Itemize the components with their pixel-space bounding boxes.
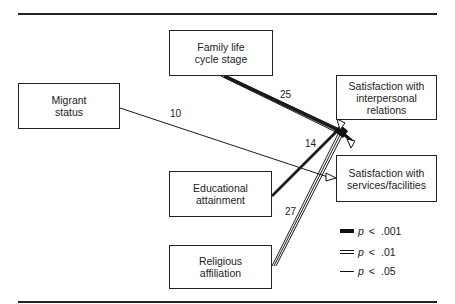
arrowhead-services-top-icon [347,139,355,148]
legend-op: < [369,265,375,277]
legend-p: p [358,246,364,258]
node-label: Migrant status [51,94,86,118]
legend-value: .05 [381,265,396,277]
edge-migrant-services [120,108,328,177]
coef-education: 14 [305,138,316,149]
legend-op: < [369,225,375,237]
edge-religion-interpersonal [272,132,343,266]
node-label: Educational attainment [193,182,248,206]
coef-family: 25 [280,89,291,100]
legend-value: .01 [381,246,396,258]
node-family-life-cycle-stage: Family life cycle stage [169,30,273,76]
node-label: Family life cycle stage [195,41,248,65]
arrowhead-migrant-services-icon [326,173,336,181]
edge-family-interpersonal [221,76,344,134]
node-satisfaction-services: Satisfaction with services/facilities [336,155,437,202]
legend-p001: p < .001 [340,225,401,237]
node-label: Religious affiliation [199,255,242,279]
node-religious-affiliation: Religious affiliation [169,245,272,289]
node-label: Satisfaction with interpersonal relation… [349,80,425,116]
coef-religion: 27 [285,206,296,217]
node-educational-attainment: Educational attainment [169,171,272,217]
node-label: Satisfaction with services/facilities [347,167,426,191]
node-satisfaction-interpersonal: Satisfaction with interpersonal relation… [336,75,437,120]
legend-p: p [358,265,364,277]
node-migrant-status: Migrant status [18,83,120,129]
legend-value: .001 [381,225,401,237]
single-line-swatch-icon [340,271,354,272]
legend-p01: p < .01 [340,246,396,258]
legend-op: < [369,246,375,258]
double-line-swatch-icon [340,250,354,254]
coef-migrant: 10 [170,108,181,119]
legend-p05: p < .05 [340,265,396,277]
thick-line-swatch-icon [340,229,354,233]
legend-p: p [358,225,364,237]
